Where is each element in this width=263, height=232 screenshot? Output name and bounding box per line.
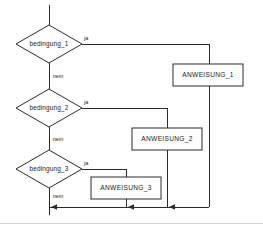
decision-bedingung-2-label: bedingung_2 [29,104,68,112]
footer-divider [0,223,263,224]
decision-bedingung-2-yes-label: ja [83,99,89,105]
decision-bedingung-3-no-label: nein [53,193,64,199]
process-anweisung-1-label: ANWEISUNG_1 [182,71,233,79]
decision-bedingung-1-yes-label: ja [83,35,89,41]
decision-bedingung-1-label: bedingung_1 [29,40,68,48]
edge-bedingung2-ja-to-anweisung2 [82,108,167,128]
merge-arrow-from-anweisung2 [169,204,175,210]
edge-bedingung1-ja-to-anweisung1 [82,44,209,64]
merge-arrow-from-anweisung3 [128,204,134,210]
decision-bedingung-2-no-label: nein [53,136,64,142]
decision-bedingung-1-no-label: nein [53,73,64,79]
decision-bedingung-3-label: bedingung_3 [29,165,68,173]
merge-arrow-from-anweisung1 [51,204,57,210]
process-anweisung-2-label: ANWEISUNG_2 [141,135,192,143]
flowchart-svg: bedingung_1 ja nein ANWEISUNG_1 bedingun… [0,0,263,232]
decision-bedingung-3-yes-label: ja [83,160,89,166]
edge-bedingung3-ja-to-anweisung3 [82,169,126,177]
flowchart-canvas: bedingung_1 ja nein ANWEISUNG_1 bedingun… [0,0,263,232]
process-anweisung-3-label: ANWEISUNG_3 [100,184,151,192]
